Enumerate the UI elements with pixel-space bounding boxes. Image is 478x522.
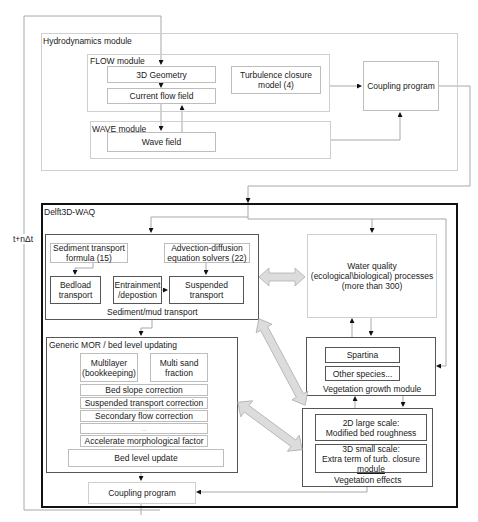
double-arrow-sediment-vegetation	[251, 315, 313, 410]
double-arrow-mor-vegetation	[232, 394, 308, 458]
block-arrows	[0, 0, 478, 522]
double-arrow-sediment-waterquality	[259, 268, 305, 286]
